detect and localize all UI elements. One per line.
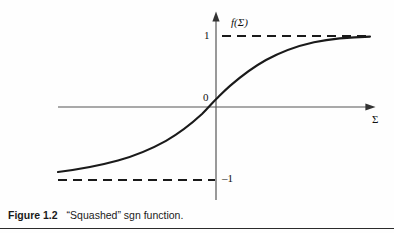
figure-caption: Figure 1.2“Squashed” sgn function. <box>8 209 183 222</box>
figure-caption-body: “Squashed” sgn function. <box>67 209 184 221</box>
figure-caption-label: Figure 1.2 <box>8 209 58 221</box>
tick-label-origin-zero: 0 <box>203 92 209 103</box>
plot-area: f(Σ) Σ 1 0 –1 <box>0 0 394 205</box>
sigmoid-curve <box>58 37 370 172</box>
tick-label-upper-one: 1 <box>204 30 210 41</box>
y-axis-label: f(Σ) <box>231 17 248 28</box>
caption-bar: Figure 1.2“Squashed” sgn function. <box>0 205 394 233</box>
figure-container: f(Σ) Σ 1 0 –1 Figure 1.2“Squashed” sgn f… <box>0 0 394 233</box>
tick-label-lower-minus-one: –1 <box>222 173 233 184</box>
x-axis-label: Σ <box>372 114 378 125</box>
plot-svg <box>0 0 394 205</box>
caption-horizontal-rule <box>0 228 394 229</box>
